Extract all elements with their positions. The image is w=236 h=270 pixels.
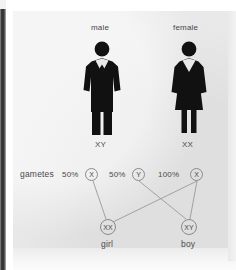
offspring-label-girl: girl: [101, 239, 113, 249]
parent-karyotype-male: XY: [95, 140, 106, 149]
parent-karyotype-female: XX: [182, 140, 193, 149]
parent-label-female: female: [173, 23, 198, 32]
offspring-genotype-boy: XY: [181, 219, 197, 235]
female-figure-icon: [172, 42, 207, 133]
parent-label-male: male: [91, 23, 109, 32]
gamete-allele-male-y: Y: [132, 168, 145, 181]
gamete-percent-female-x: 100%: [158, 170, 179, 179]
gamete-percent-male-y: 50%: [109, 170, 126, 179]
offspring-genotype-girl: XX: [100, 219, 116, 235]
gamete-percent-male-x: 50%: [62, 170, 79, 179]
parent-figures-group: [0, 0, 236, 270]
offspring-label-boy: boy: [181, 239, 195, 249]
male-figure-icon: [84, 42, 121, 135]
gamete-allele-male-x: X: [85, 168, 98, 181]
gametes-label: gametes: [20, 169, 54, 179]
gamete-allele-female-x: X: [190, 168, 203, 181]
